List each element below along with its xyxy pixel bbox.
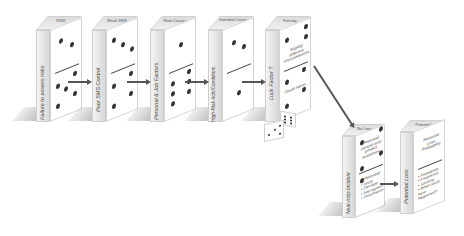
die-pip <box>284 118 286 120</box>
domino-face: Slightly different circumstances Could H… <box>279 17 311 122</box>
pip <box>130 46 134 53</box>
pip <box>302 86 306 93</box>
pip <box>242 43 246 50</box>
pip <box>112 37 116 44</box>
pip <box>171 81 175 88</box>
domino-side-label: Potential Loss <box>403 169 409 204</box>
pip <box>129 90 133 97</box>
die-pip <box>290 122 292 124</box>
pip <box>302 66 306 73</box>
die-pip <box>284 115 286 117</box>
domino-face: Potential control and predict outcomes P… <box>355 124 385 218</box>
pip <box>232 39 236 46</box>
pip <box>112 103 116 110</box>
die <box>264 120 284 142</box>
domino-side-label: Near-miss Incident <box>345 172 351 214</box>
domino-divider <box>227 63 251 74</box>
arrow-3-to-4 <box>185 81 205 83</box>
pip <box>285 37 289 44</box>
arrow-2-to-3 <box>127 81 147 83</box>
pip <box>64 86 68 93</box>
domino-side-label: Failure to assess risks <box>39 66 45 120</box>
die-pip <box>284 121 286 123</box>
pip <box>285 79 289 86</box>
die-pip <box>290 116 292 118</box>
arrow-4-to-5 <box>242 81 262 83</box>
pip <box>59 38 63 45</box>
pip <box>56 83 60 90</box>
die-pip <box>274 129 276 131</box>
potential-upper-text: Potential Loss Probability <box>422 132 440 153</box>
arrow-6-to-7 <box>380 183 395 185</box>
pip <box>304 23 308 30</box>
no-loss-upper-text: Potential control and predict outcomes <box>360 134 382 161</box>
pip <box>304 33 308 40</box>
domino-face <box>50 17 82 122</box>
domino-face: Potential Loss Probability • Probability… <box>413 119 445 214</box>
domino-side-label: High-Risk Acts/Conditions <box>211 67 216 122</box>
pip <box>187 88 191 95</box>
pip <box>379 150 383 157</box>
domino-face <box>164 17 196 122</box>
die-pip <box>279 133 281 135</box>
pip <box>73 90 77 97</box>
die-pip <box>290 119 292 121</box>
pip <box>187 68 191 75</box>
die-pip <box>279 125 281 127</box>
die-pip <box>268 134 270 136</box>
potential-lower-list: • Probability • Frequency • Severity • W… <box>418 164 446 202</box>
arrow-5-to-6 <box>313 65 353 125</box>
domino-side-label: Personal & Job Factors <box>153 63 159 120</box>
domino-face <box>222 17 254 122</box>
pip <box>121 41 125 48</box>
dice-pair <box>264 112 304 148</box>
pip <box>73 70 77 77</box>
pip <box>56 103 60 110</box>
pip <box>237 89 241 96</box>
pip <box>112 83 116 90</box>
pip <box>70 41 74 48</box>
pip <box>171 91 175 98</box>
pip <box>285 103 289 110</box>
domino-face <box>106 17 138 122</box>
pip <box>129 70 133 77</box>
arrow-1-to-2 <box>68 81 88 83</box>
domino-side-label: Poor SMS Control <box>95 68 101 112</box>
domino-side-label: Luck Factor ? <box>268 67 274 100</box>
pip <box>379 126 383 133</box>
pip <box>171 101 175 108</box>
pip <box>179 41 183 48</box>
